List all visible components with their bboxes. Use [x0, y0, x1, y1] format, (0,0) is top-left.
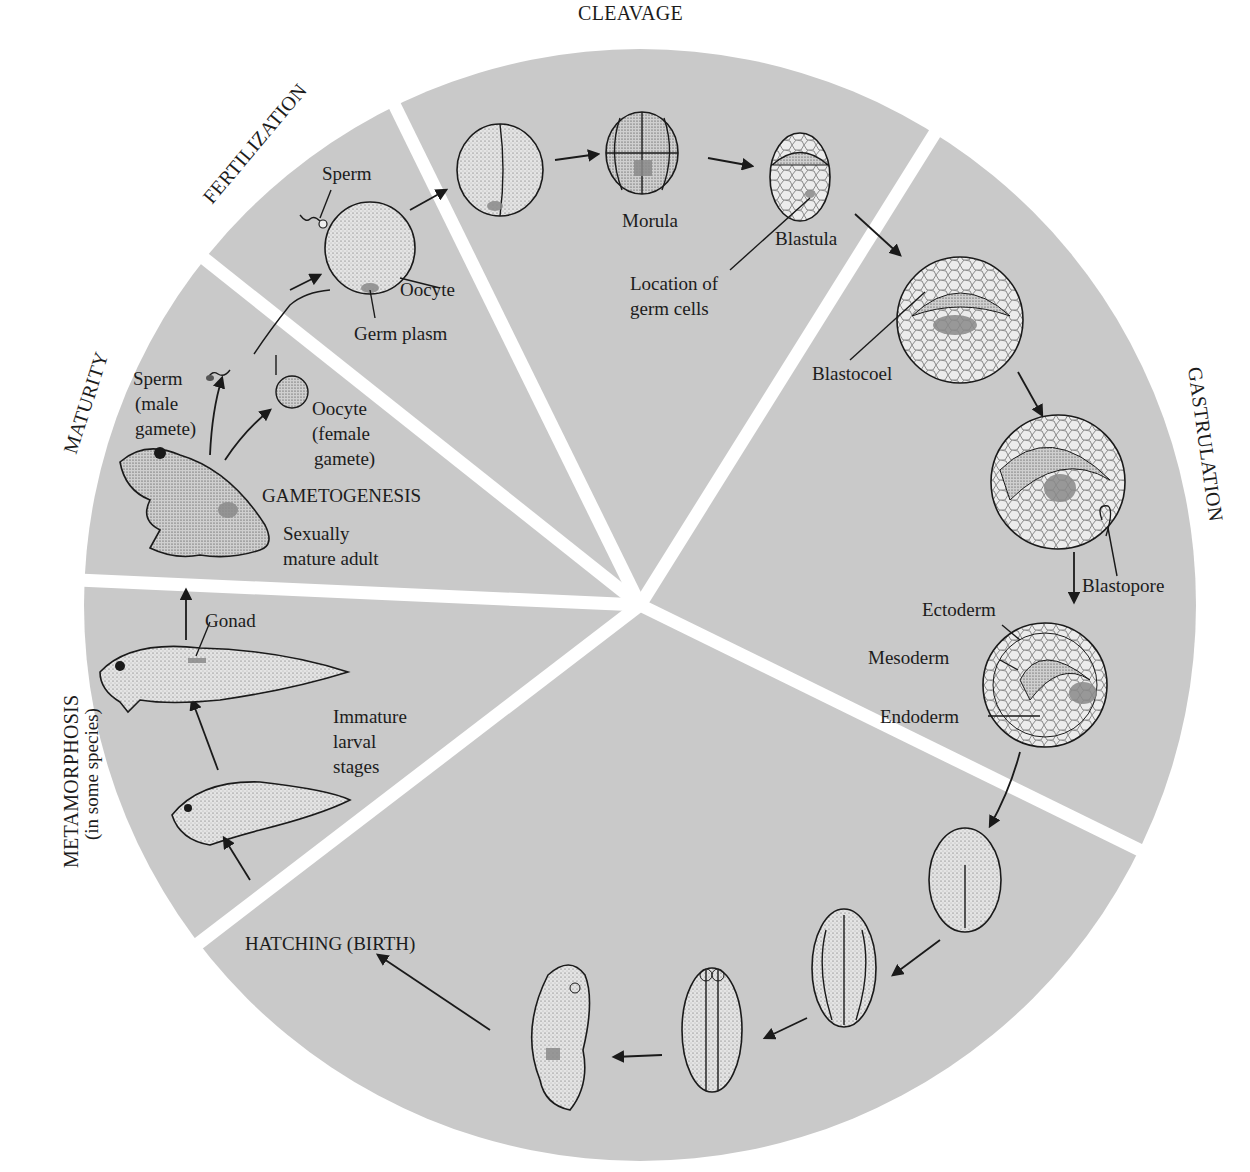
label-gonad: Gonad [205, 610, 256, 631]
label-male-gamete: gamete) [135, 418, 196, 440]
label-sexually: Sexually [283, 523, 350, 544]
label-gametogenesis: GAMETOGENESIS [262, 485, 421, 506]
label-immature: Immature [333, 706, 407, 727]
stage-label-maturity: MATURITY [59, 349, 113, 456]
label-oocyte: Oocyte [400, 279, 455, 300]
label-germ-plasm: Germ plasm [354, 323, 448, 344]
label-sperm-gamete: Sperm [133, 368, 183, 389]
label-female-gamete: gamete) [314, 448, 375, 470]
stage-label-cleavage: CLEAVAGE [578, 2, 683, 24]
label-male: (male [135, 393, 178, 415]
stage-label-gastrulation: GASTRULATION [1184, 365, 1227, 522]
label-ectoderm: Ectoderm [922, 599, 996, 620]
label-endoderm: Endoderm [880, 706, 959, 727]
neural-tube-embryo [682, 968, 742, 1092]
label-morula: Morula [622, 210, 679, 231]
label-oocyte-gamete: Oocyte [312, 398, 367, 419]
sperm-cell-icon [319, 220, 327, 228]
stage-label-metamorphosis: METAMORPHOSIS [60, 695, 82, 868]
frog-life-cycle-diagram: CLEAVAGE FERTILIZATION MATURITY METAMORP… [0, 0, 1250, 1172]
label-stages: stages [333, 756, 379, 777]
label-larval: larval [333, 731, 376, 752]
label-mesoderm: Mesoderm [868, 647, 949, 668]
oocyte-gamete-illustration [276, 376, 308, 408]
label-location-of: Location of [630, 273, 719, 294]
label-blastopore: Blastopore [1082, 575, 1164, 596]
label-blastula: Blastula [775, 228, 838, 249]
label-female: (female [312, 423, 370, 445]
label-mature-adult: mature adult [283, 548, 379, 569]
label-blastocoel: Blastocoel [812, 363, 892, 384]
label-hatching: HATCHING (BIRTH) [245, 933, 415, 955]
label-sperm: Sperm [322, 163, 372, 184]
stage-note-metamorphosis: (in some species) [81, 708, 103, 840]
label-germ-cells-text: germ cells [630, 298, 709, 319]
